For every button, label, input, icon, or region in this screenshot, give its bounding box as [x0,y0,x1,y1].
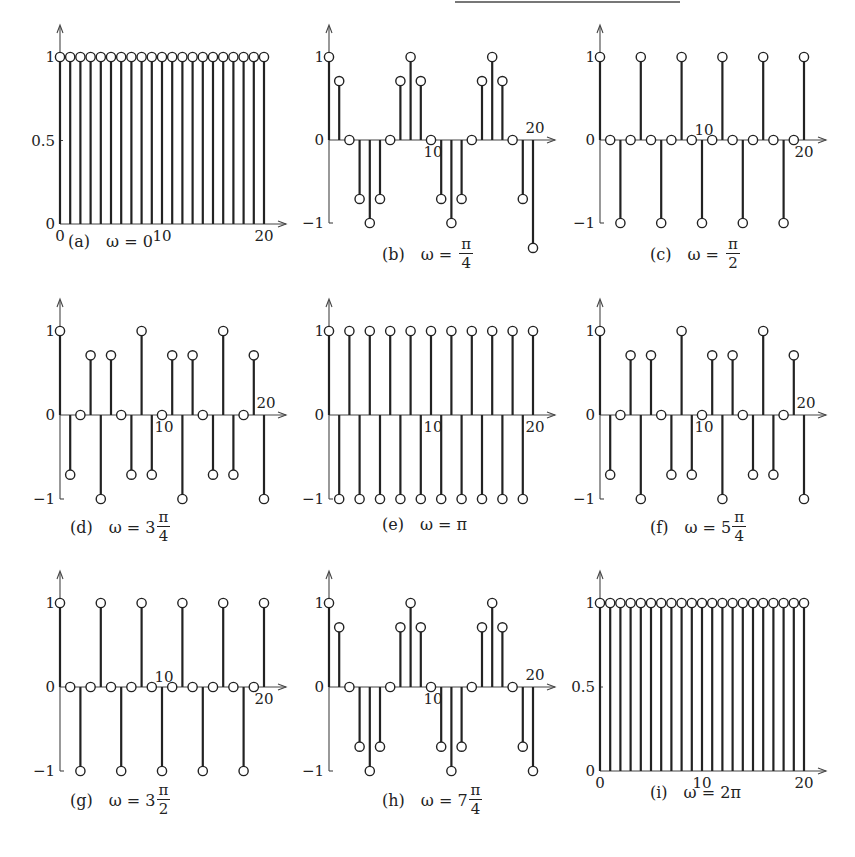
omega-fraction: π4 [157,510,171,544]
panel-label: (i) [650,783,668,802]
stem-marker-icon [178,494,187,503]
stem-marker-icon [416,623,425,632]
stem-marker-icon [626,598,635,607]
stem-marker-icon [636,494,645,503]
stem-marker-icon [249,351,258,360]
stem-marker-icon [76,766,85,775]
stem-marker-icon [769,135,778,144]
omega-expression: ω = [687,245,719,264]
stem-plots-canvas: 00.5101020−1011020−1011020−1011020−10110… [0,0,855,857]
figure: 00.5101020−1011020−1011020−1011020−10110… [0,0,855,857]
stem-marker-icon [779,410,788,419]
stem-marker-icon [457,494,466,503]
stem-marker-icon [528,326,537,335]
omega-expression: ω = 7 [421,791,468,810]
stem-marker-icon [219,598,228,607]
stem-marker-icon [728,351,737,360]
stem-marker-icon [117,766,126,775]
stem-marker-icon [365,766,374,775]
stem-marker-icon [728,598,737,607]
stem-marker-icon [137,598,146,607]
panel-f: −1011020 [573,299,826,508]
stem-marker-icon [386,326,395,335]
stem-marker-icon [748,598,757,607]
x-tick-label: 0 [595,774,605,792]
stem-marker-icon [708,351,717,360]
panel-e: −1011020 [302,299,555,508]
stem-marker-icon [646,135,655,144]
panel-caption-h: (h)ω = 7π4 [382,783,482,817]
stem-marker-icon [229,682,238,691]
panel-caption-e: (e)ω = π [382,515,467,534]
stem-marker-icon [528,766,537,775]
y-tick-label: 0.5 [31,132,55,150]
y-tick-label: 1 [314,594,324,612]
stem-marker-icon [345,682,354,691]
stem-marker-icon [718,598,727,607]
stem-marker-icon [636,598,645,607]
stem-marker-icon [157,52,166,61]
stem-marker-icon [728,135,737,144]
stem-marker-icon [406,52,415,61]
stem-marker-icon [616,218,625,227]
stem-marker-icon [229,52,238,61]
stem-marker-icon [759,598,768,607]
stem-marker-icon [667,598,676,607]
panel-caption-d: (d)ω = 3π4 [70,510,170,544]
stem-marker-icon [606,598,615,607]
x-tick-label: 20 [796,394,815,412]
omega-fraction: π4 [459,237,473,271]
stem-marker-icon [178,52,187,61]
stem-marker-icon [396,494,405,503]
y-tick-label: −1 [573,214,595,232]
stem-marker-icon [324,326,333,335]
panel-caption-g: (g)ω = 3π2 [70,783,170,817]
omega-expression: ω = π [420,515,467,534]
y-tick-label: 0 [45,678,55,696]
omega-expression: ω = [421,245,453,264]
stem-marker-icon [345,326,354,335]
stem-marker-icon [467,135,476,144]
stem-marker-icon [355,494,364,503]
omega-expression: ω = 0 [106,232,153,251]
y-tick-label: 0 [585,131,595,149]
stem-marker-icon [508,682,517,691]
stem-marker-icon [66,470,75,479]
stem-marker-icon [96,598,105,607]
x-tick-label: 20 [525,418,544,436]
panel-label: (b) [382,245,405,264]
stem-marker-icon [498,623,507,632]
x-tick-label: 20 [256,394,275,412]
stem-marker-icon [375,742,384,751]
stem-marker-icon [259,494,268,503]
stem-marker-icon [188,52,197,61]
panel-label: (g) [70,791,93,810]
panel-caption-b: (b)ω =π4 [382,237,473,271]
stem-marker-icon [86,351,95,360]
x-tick-label: 10 [154,668,173,686]
y-tick-label: −1 [33,490,55,508]
omega-expression: ω = 2π [684,783,741,802]
stem-marker-icon [636,52,645,61]
stem-marker-icon [518,494,527,503]
stem-marker-icon [687,470,696,479]
x-tick-label: 20 [525,666,544,684]
stem-marker-icon [335,76,344,85]
omega-fraction: π4 [469,783,483,817]
stem-marker-icon [508,326,517,335]
stem-marker-icon [769,598,778,607]
panel-b: −1011020 [302,25,555,252]
stem-marker-icon [396,76,405,85]
stem-marker-icon [147,470,156,479]
stem-marker-icon [86,52,95,61]
stem-marker-icon [646,598,655,607]
stem-marker-icon [55,52,64,61]
panel-label: (e) [382,515,404,534]
stem-marker-icon [76,52,85,61]
stem-marker-icon [355,742,364,751]
x-tick-label: 10 [154,418,173,436]
panel-a: 00.5101020 [31,25,286,245]
panel-caption-f: (f)ω = 5π4 [650,510,746,544]
y-tick-label: 1 [45,48,55,66]
stem-marker-icon [779,598,788,607]
